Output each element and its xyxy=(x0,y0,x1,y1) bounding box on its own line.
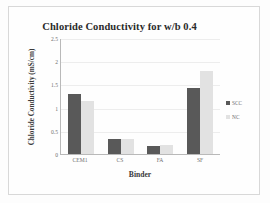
bar-group xyxy=(147,39,173,154)
bar-group xyxy=(108,39,134,154)
y-axis-tick-label: 1 xyxy=(55,106,58,112)
bar-nc-cs xyxy=(121,139,134,154)
x-axis-tick-label: CEM1 xyxy=(62,157,98,163)
y-axis-label: Chloride Conductivity (mS/cm) xyxy=(26,39,38,155)
y-axis-label-text: Chloride Conductivity (mS/cm) xyxy=(28,49,36,146)
legend-swatch-icon xyxy=(226,101,230,105)
bar-nc-sf xyxy=(200,71,213,154)
x-axis-label: Binder xyxy=(60,170,220,179)
bar-scc-sf xyxy=(187,88,200,154)
y-axis-tick-label: 0.5 xyxy=(51,129,58,135)
bar-groups xyxy=(61,39,220,154)
y-axis-tick-label: 0 xyxy=(55,152,58,158)
legend-label: SCC xyxy=(232,100,242,106)
bar-nc-cem1 xyxy=(81,101,94,154)
chart-title: Chloride Conductivity for w/b 0.4 xyxy=(12,21,227,32)
x-axis-tick-label: SF xyxy=(182,157,218,163)
bar-chart: Chloride Conductivity for w/b 0.4 Chlori… xyxy=(12,10,256,191)
legend-item-nc: NC xyxy=(226,113,258,120)
legend-item-scc: SCC xyxy=(226,99,258,106)
bar-group xyxy=(187,39,213,154)
legend-swatch-icon xyxy=(226,115,230,119)
bar-group xyxy=(68,39,94,154)
bar-nc-fa xyxy=(160,145,173,154)
x-axis-tick-label: FA xyxy=(142,157,178,163)
chart-legend: SCCNC xyxy=(226,99,258,127)
bar-scc-cem1 xyxy=(68,94,81,154)
legend-label: NC xyxy=(232,114,240,120)
bar-scc-fa xyxy=(147,146,160,154)
chart-page: Chloride Conductivity for w/b 0.4 Chlori… xyxy=(0,0,270,203)
plot-area: 2.521.510.50 xyxy=(60,39,220,155)
y-axis-tick-label: 1.5 xyxy=(51,82,58,88)
x-axis-tick-label: CS xyxy=(102,157,138,163)
bar-scc-cs xyxy=(108,139,121,154)
y-axis-tick-label: 2 xyxy=(55,59,58,65)
y-axis-tick-label: 2.5 xyxy=(51,36,58,42)
x-axis-ticks: CEM1CSFASF xyxy=(60,157,220,163)
